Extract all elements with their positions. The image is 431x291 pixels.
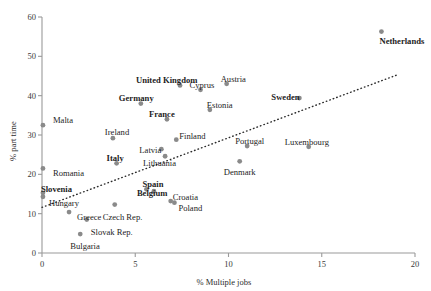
data-point: [67, 210, 72, 215]
point-label: Luxembourg: [285, 138, 329, 147]
plot-area: [0, 0, 431, 291]
point-label: Denmark: [224, 168, 256, 177]
point-label: Finland: [179, 132, 205, 141]
data-point: [174, 137, 179, 142]
data-point: [41, 194, 46, 199]
point-label: Sweden: [271, 93, 299, 102]
point-label: Slovenia: [41, 185, 72, 194]
point-label: Lithuania: [143, 159, 176, 168]
data-point: [41, 166, 46, 171]
y-tick-label: 50: [12, 52, 36, 61]
data-points-group: [41, 29, 384, 236]
point-label: Belgium: [137, 189, 168, 198]
point-label: Croatia: [173, 193, 198, 202]
x-tick-label: 20: [400, 260, 430, 269]
y-tick-label: 20: [12, 170, 36, 179]
y-tick-label: 10: [12, 210, 36, 219]
data-point: [379, 29, 384, 34]
data-point: [78, 232, 83, 237]
point-label: Malta: [53, 116, 73, 125]
data-point: [112, 202, 117, 207]
point-label: Romania: [53, 169, 84, 178]
point-label: Bulgaria: [70, 242, 100, 251]
data-point: [237, 159, 242, 164]
point-label: Germany: [119, 94, 154, 103]
point-label: Portugal: [235, 137, 264, 146]
scatter-chart: MaltaRomaniaSloveniaHungaryGreeceBulgari…: [0, 0, 431, 291]
point-label: Cyprus: [190, 81, 215, 90]
point-label: Hungary: [49, 199, 79, 208]
point-label: Slovak Rep.: [91, 228, 133, 237]
point-label: Netherlands: [379, 37, 424, 46]
point-label: Austria: [221, 75, 246, 84]
point-label: Italy: [107, 154, 124, 163]
point-label: Latvia: [139, 146, 161, 155]
point-label: Greece: [77, 213, 101, 222]
point-label: Ireland: [105, 128, 129, 137]
point-label: Czech Rep.: [103, 213, 143, 222]
point-label: Poland: [178, 204, 202, 213]
y-tick-label: 60: [12, 13, 36, 22]
y-tick-label: 40: [12, 92, 36, 101]
x-tick-label: 10: [214, 260, 244, 269]
trendline: [42, 75, 396, 207]
x-tick-label: 5: [120, 260, 150, 269]
x-tick-label: 15: [307, 260, 337, 269]
point-label: Estonia: [207, 101, 233, 110]
y-axis-title: % part time: [9, 121, 18, 161]
point-label: France: [149, 110, 175, 119]
x-tick-label: 0: [27, 260, 57, 269]
y-tick-label: 0: [12, 249, 36, 258]
point-label: United Kingdom: [136, 76, 197, 85]
data-point: [41, 123, 46, 128]
x-axis-title: % Multiple jobs: [197, 278, 252, 287]
